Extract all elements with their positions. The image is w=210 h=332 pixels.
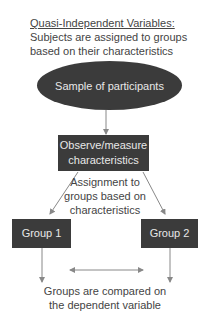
assignment-label: Assignment to groups based on characteri… — [60, 175, 150, 217]
subtitle-line-2: based on their characteristics — [30, 45, 173, 57]
sample-node: Sample of participants — [37, 61, 182, 110]
observe-label-1: Observe/measure — [60, 138, 147, 153]
observe-label-2: characteristics — [68, 153, 138, 168]
group-2-node: Group 2 — [141, 219, 198, 248]
sample-label: Sample of participants — [55, 80, 164, 92]
comparison-label: Groups are compared on the dependent var… — [40, 284, 170, 312]
diagram-title: Quasi-Independent Variables: — [30, 17, 175, 29]
group-1-node: Group 1 — [12, 219, 71, 248]
observe-node: Observe/measure characteristics — [58, 135, 149, 171]
subtitle-line-1: Subjects are assigned to groups — [30, 31, 187, 43]
